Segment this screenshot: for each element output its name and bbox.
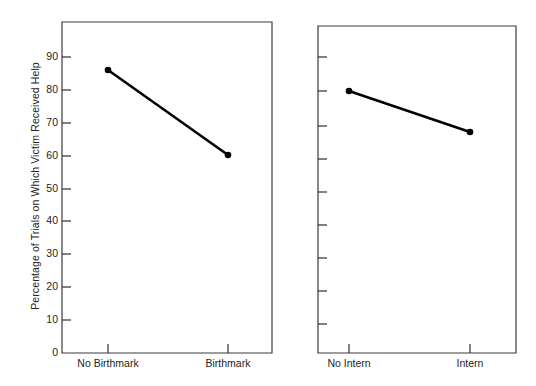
left-plot-frame [62, 22, 272, 353]
left-x-ticks [108, 344, 228, 353]
right-panel-axes [318, 26, 516, 353]
figure-container: Percentage of Trials on Which Victim Rec… [0, 0, 536, 386]
left-data-point-birthmark [225, 152, 232, 159]
right-plot-frame [318, 26, 516, 353]
left-series-line [108, 70, 228, 155]
left-data-series [105, 67, 232, 159]
left-data-point-no-birthmark [105, 67, 112, 74]
left-y-ticks [62, 57, 71, 320]
left-panel-axes [62, 22, 272, 353]
right-data-point-no-intern [346, 88, 353, 95]
right-series-line [349, 91, 470, 132]
right-data-series [346, 88, 474, 136]
right-y-ticks [318, 57, 327, 324]
right-x-ticks [349, 344, 470, 353]
right-data-point-intern [467, 129, 474, 136]
plot-svg [0, 0, 536, 386]
